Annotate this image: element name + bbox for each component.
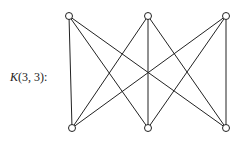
graph-node bbox=[223, 125, 230, 132]
graph-edge bbox=[69, 16, 72, 128]
graph-node bbox=[145, 13, 152, 20]
bipartite-graph bbox=[0, 0, 242, 146]
graph-node bbox=[66, 13, 73, 20]
graph-node bbox=[69, 125, 76, 132]
graph-node bbox=[223, 13, 230, 20]
graph-node bbox=[145, 125, 152, 132]
